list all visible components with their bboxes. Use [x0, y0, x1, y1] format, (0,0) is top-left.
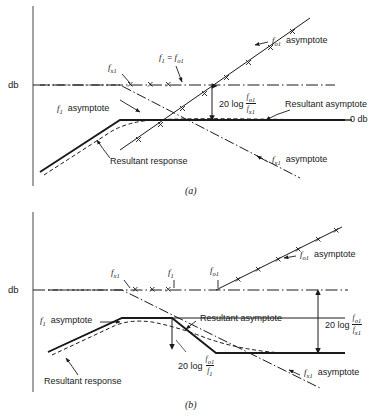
panel-a-fx1-label-leader — [257, 156, 268, 162]
panel-a-breakpoint-label: f1 = fo1 — [159, 53, 184, 64]
panel-b-gain-mid-fraction: fo1 f1 — [205, 355, 216, 377]
panel-b-fx1-asymptote-label: fx1 asymptote — [304, 368, 359, 379]
panel-b-resultant-asymptote-leader — [186, 321, 196, 329]
panel-b-gain-mid-denominator: f1 — [206, 365, 213, 377]
panel-b-fx1-leader — [124, 280, 130, 288]
panel-a-fo1-asymptote-label: fo1 asymptote — [272, 36, 328, 47]
panel-a-zero-db-label: 0 db — [350, 115, 368, 124]
panel-a-fx1-leader — [122, 74, 130, 83]
panel-b-fo1-top-label: fo1 — [210, 266, 219, 277]
panel-b-gain-right-lead: 20 log — [325, 320, 350, 330]
panel-a-breakpoint-leader — [176, 66, 182, 82]
panel-b-resultant-response-label: Resultant response — [44, 377, 122, 386]
panel-b-fx1-top-label: fx1 — [111, 268, 120, 279]
panel-a-gain-annotation: 20 log fo1 fx1 — [219, 93, 256, 115]
panel-b-fx1-label-leader — [289, 370, 300, 375]
panel-a-gain-numerator: fo1 — [246, 93, 257, 104]
panel-b-gain-mid-leader — [176, 340, 186, 352]
panel-a-resultant-response-curve — [44, 119, 330, 175]
panel-b-gain-right-fraction: fo1 fx1 — [352, 314, 363, 336]
panel-a-f1-label-leader — [120, 100, 140, 112]
panel-a-gain-lead: 20 log — [219, 99, 244, 109]
panel-b-gain-mid-numerator: fo1 — [205, 355, 216, 366]
panel-a-fo1-label-leader — [255, 42, 268, 45]
panel-b-db-axis-label: db — [8, 285, 19, 295]
panel-b-resultant-response-leader — [66, 358, 78, 375]
panel-a-gain-fraction: fo1 fx1 — [246, 93, 257, 115]
panel-b-gain-annotation-right: 20 log fo1 fx1 — [325, 314, 362, 336]
panel-b-resultant-asymptote-line — [48, 318, 345, 353]
panel-b-gain-bracket-mid-arrowhead — [169, 344, 174, 350]
panel-a-f1-asymptote-label: f1 asymptote — [57, 104, 109, 115]
panel-b-gain-right-numerator: fo1 — [352, 314, 363, 325]
panel-b-db-tick-marks — [133, 287, 171, 292]
panel-a-fx1-top-label: fx1 — [108, 63, 117, 74]
panel-b-fo1-label-leader — [284, 256, 296, 258]
panel-b-gain-annotation-mid: 20 log fo1 f1 — [178, 355, 215, 377]
panel-b-f1-asymptote-line — [48, 318, 345, 352]
panel-b-f1-asymptote-label: f1 asymptote — [40, 316, 92, 327]
panel-b-tag: (b) — [185, 400, 197, 410]
panel-b-gain-mid-lead: 20 log — [178, 361, 203, 371]
panel-a-fx1-asymptote-label: fx1 asymptote — [272, 155, 327, 166]
panel-a-tag: (a) — [185, 186, 197, 196]
panel-b-f1-top-label: f1 — [168, 268, 174, 279]
panel-a-db-axis-label: db — [8, 80, 19, 90]
panel-a-db-tick-marks — [128, 82, 171, 87]
panel-a-resultant-response-leader — [97, 140, 110, 158]
panel-b-resultant-asymptote-label: Resultant asymptote — [200, 314, 282, 323]
panel-a-resultant-response-label: Resultant response — [110, 157, 188, 166]
panel-a-resultant-asymptote-label: Resultant asymptote — [285, 100, 367, 109]
panel-a-resultant-asymptote-leader — [266, 110, 290, 120]
panel-a-gain-denominator: fx1 — [246, 103, 256, 115]
panel-b-gain-right-denominator: fx1 — [352, 324, 362, 336]
bode-figure: db fx1 f1 = fo1 fo1 asymptote f1 asympto… — [0, 0, 386, 420]
panel-b-fo1-asymptote-label: fo1 asymptote — [300, 250, 356, 261]
